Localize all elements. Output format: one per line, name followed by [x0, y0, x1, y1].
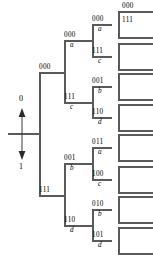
node-l3-6-code: 100: [92, 171, 104, 178]
edge-l2b-up: [93, 87, 112, 103]
edge-l2c-up: [93, 148, 112, 164]
node-l2-2-code: 111: [64, 94, 75, 101]
node-l3-4-code: 110: [92, 109, 103, 116]
node-l3-6-letter: c: [98, 181, 101, 188]
leaf-bracket-8: [119, 228, 153, 254]
leaf-bracket-2: [119, 44, 153, 70]
node-l3-3-letter: b: [98, 88, 102, 95]
node-l2-1-code: 000: [64, 32, 76, 39]
node-l2-4-letter: d: [70, 227, 74, 234]
edge-l2d-up: [93, 210, 112, 226]
leaf-bracket-4: [119, 105, 153, 131]
node-l3-4-letter: d: [98, 119, 102, 126]
root-bit-up: 0: [19, 95, 23, 103]
node-l3-5-code: 011: [92, 139, 103, 146]
node-l2-3-letter: b: [70, 165, 74, 172]
node-l2-2-letter: c: [70, 104, 73, 111]
node-l1-up-code: 000: [39, 64, 51, 71]
node-l1-down-code: 111: [39, 187, 50, 194]
node-l3-8-code: 101: [92, 232, 104, 239]
node-l3-1-code: 000: [92, 16, 104, 23]
node-l3-2-letter: c: [98, 58, 101, 65]
node-l3-7-code: 010: [92, 201, 104, 208]
leaf-label-top: 000: [122, 3, 134, 10]
node-l3-1-letter: a: [98, 26, 102, 33]
leaf-bracket-7: [119, 197, 153, 223]
node-l3-2-code: 111: [92, 48, 103, 55]
leaf-bracket-6: [119, 167, 153, 193]
leaf-bracket-3: [119, 74, 153, 100]
edge-root-up: [40, 73, 52, 134]
edge-l2a-up: [93, 25, 112, 41]
node-l3-3-code: 001: [92, 78, 104, 85]
leaf-bracket-5: [119, 135, 153, 161]
node-l3-8-letter: d: [98, 242, 102, 249]
tree-diagram: 0 1 000 111 000 a 111 c 001 b 110 d 000 …: [0, 0, 153, 263]
node-l3-7-letter: b: [98, 211, 102, 218]
node-l2-1-letter: a: [70, 42, 74, 49]
leaf-label-bottom: 111: [122, 17, 133, 24]
node-l3-5-letter: a: [98, 149, 102, 156]
node-l2-4-code: 110: [64, 217, 75, 224]
tree-edges: [0, 0, 153, 263]
root-bit-down: 1: [19, 163, 23, 171]
node-l2-3-code: 001: [64, 155, 76, 162]
